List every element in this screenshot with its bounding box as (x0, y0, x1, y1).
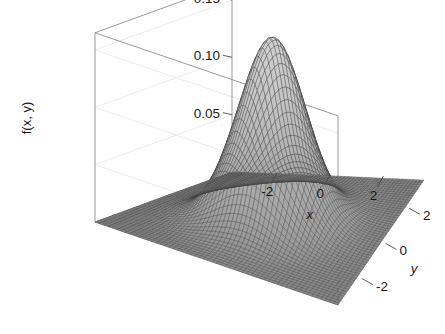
tick-mark (386, 243, 397, 249)
y-axis-title: y (410, 261, 419, 276)
y-tick-label-2: -2 (376, 279, 388, 294)
z-tick-label-0: 0.15 (194, 0, 220, 6)
surface-plot-figure: 0.15 0.10 0.05 f(x, y) -2 0 2 x 2 0 -2 y (0, 0, 445, 334)
x-tick-label-0: -2 (261, 184, 273, 199)
y-tick-label-0: 2 (423, 208, 431, 223)
y-tick-label-1: 0 (400, 243, 408, 258)
tick-mark (362, 279, 373, 285)
plot-page: 0.15 0.10 0.05 f(x, y) -2 0 2 x 2 0 -2 y (0, 0, 445, 334)
z-tick-label-1: 0.10 (194, 48, 220, 63)
z-axis-title: f(x, y) (19, 102, 34, 135)
z-tick-label-2: 0.05 (194, 106, 220, 121)
x-tick-label-1: 0 (317, 186, 325, 201)
tick-mark (409, 208, 420, 214)
x-tick-label-2: 2 (370, 188, 378, 203)
x-axis-title: x (305, 207, 314, 222)
